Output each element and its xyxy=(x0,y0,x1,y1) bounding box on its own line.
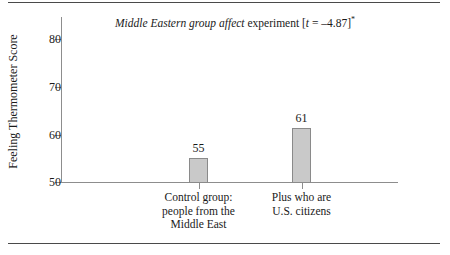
chart-title-roman-part: experiment [ xyxy=(245,17,306,29)
y-axis-line xyxy=(61,17,62,183)
x-axis-line xyxy=(61,182,398,183)
category-label-control-group-line-3: Middle East xyxy=(133,218,264,232)
category-label-us-citizens: Plus who are U.S. citizens xyxy=(241,191,362,218)
chart-title-statistic-value: = –4.87] xyxy=(309,17,351,29)
chart-title-significance-marker: * xyxy=(351,15,355,24)
chart-title-italic-part: Middle Eastern group affect xyxy=(115,17,245,29)
bar-us-citizens xyxy=(292,128,311,183)
y-tick-label-60: 60 xyxy=(15,129,61,141)
category-label-us-citizens-line-1: Plus who are xyxy=(241,191,362,205)
y-tick-label-50: 50 xyxy=(15,176,61,188)
x-tick-mark-control-group xyxy=(199,183,200,189)
top-horizontal-rule xyxy=(8,2,440,3)
category-label-us-citizens-line-2: U.S. citizens xyxy=(241,205,362,219)
bar-control-group xyxy=(189,158,208,183)
y-tick-label-80: 80 xyxy=(15,33,61,45)
figure-container: Middle Eastern group affect experiment [… xyxy=(0,0,450,255)
bar-value-label-us-citizens: 61 xyxy=(271,112,332,124)
y-axis-title: Feeling Thermometer Score xyxy=(7,12,20,192)
bar-value-label-control-group: 55 xyxy=(168,142,229,154)
y-tick-label-70: 70 xyxy=(15,81,61,93)
x-tick-mark-us-citizens xyxy=(302,183,303,189)
chart-title: Middle Eastern group affect experiment [… xyxy=(70,13,400,30)
bottom-horizontal-rule xyxy=(8,243,440,244)
